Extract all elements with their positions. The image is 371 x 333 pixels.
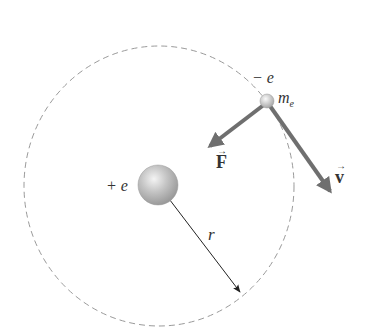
force-vector-arrow — [210, 104, 265, 146]
nucleus — [138, 165, 178, 205]
electron-charge-label: − e — [252, 70, 274, 86]
radius-label: r — [208, 226, 215, 243]
velocity-vector-arrow — [270, 106, 330, 191]
nucleus-charge-label: + e — [106, 178, 128, 194]
electron — [260, 94, 274, 108]
radius-arrow — [160, 187, 240, 292]
vector-arrow-icon: → — [336, 161, 346, 171]
force-vector-label: → F — [216, 153, 227, 171]
vector-arrow-icon: → — [217, 146, 227, 156]
bohr-atom-diagram — [0, 0, 371, 333]
electron-mass-label: me — [278, 90, 294, 109]
velocity-vector-label: → v — [335, 168, 344, 186]
